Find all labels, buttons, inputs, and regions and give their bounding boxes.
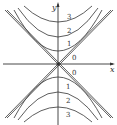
level-label-lower-2: 2 bbox=[66, 97, 70, 105]
level-label-upper-3: 3 bbox=[67, 13, 71, 21]
contour-diagram: y x 3 2 1 0 0 1 2 3 bbox=[0, 0, 117, 125]
y-axis-label: y bbox=[51, 3, 57, 12]
y-axis-arrow-icon bbox=[57, 2, 60, 7]
origin-point bbox=[57, 63, 60, 66]
level-label-lower-1: 1 bbox=[66, 83, 70, 91]
level-label-lower-3: 3 bbox=[66, 111, 70, 119]
level-label-upper-1: 1 bbox=[67, 40, 71, 48]
level-label-upper-2: 2 bbox=[67, 27, 71, 35]
level-label-upper-0: 0 bbox=[72, 54, 76, 62]
level-label-lower-0: 0 bbox=[72, 69, 76, 77]
x-axis-label: x bbox=[110, 65, 115, 74]
